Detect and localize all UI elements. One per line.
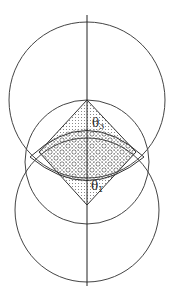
diagram-canvas: θ3 θ1 [0,0,173,297]
